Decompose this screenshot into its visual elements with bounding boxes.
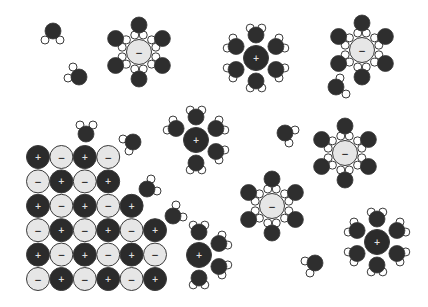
- hydrating-water: [264, 219, 280, 241]
- hydrating-water: [389, 246, 410, 266]
- lattice-cation: +: [97, 268, 120, 291]
- oxygen-atom: [328, 79, 344, 95]
- oxygen-atom: [208, 121, 224, 137]
- plus-sign-icon: +: [81, 251, 88, 260]
- oxygen-atom: [188, 155, 204, 171]
- plus-sign-icon: +: [193, 136, 200, 145]
- oxygen-atom: [131, 17, 147, 33]
- oxygen-atom: [241, 185, 257, 201]
- oxygen-atom: [45, 23, 61, 39]
- oxygen-atom: [331, 29, 347, 45]
- free-water-molecule: [277, 125, 299, 147]
- hydrating-water: [367, 208, 387, 227]
- solvated-cation: +: [365, 230, 390, 255]
- solvated-anion: −: [127, 40, 152, 65]
- oxygen-atom: [208, 144, 224, 160]
- hydrated-anion-cluster: −: [108, 17, 171, 87]
- minus-sign-icon: −: [128, 275, 136, 285]
- plus-sign-icon: +: [35, 251, 42, 260]
- plus-sign-icon: +: [128, 251, 135, 260]
- plus-sign-icon: +: [374, 238, 381, 247]
- oxygen-atom: [268, 62, 284, 78]
- lattice-cation: +: [50, 170, 73, 193]
- free-water-molecule: [41, 23, 64, 44]
- oxygen-atom: [71, 69, 87, 85]
- oxygen-atom: [154, 58, 170, 74]
- free-water-molecule: [165, 201, 187, 224]
- minus-sign-icon: −: [34, 226, 42, 236]
- minus-sign-icon: −: [151, 250, 159, 260]
- hydrated-anion-cluster: −: [241, 171, 304, 241]
- hydrating-water: [367, 257, 387, 276]
- plus-sign-icon: +: [196, 251, 203, 260]
- lattice-anion: −: [120, 219, 143, 242]
- oxygen-atom: [360, 159, 376, 175]
- hydrated-anion-cluster: −: [314, 118, 377, 188]
- minus-sign-icon: −: [81, 226, 89, 236]
- hydrating-water: [223, 34, 244, 54]
- oxygen-atom: [389, 246, 405, 262]
- minus-sign-icon: −: [128, 226, 136, 236]
- oxygen-atom: [377, 29, 393, 45]
- plus-sign-icon: +: [58, 226, 65, 235]
- minus-sign-icon: −: [358, 46, 366, 56]
- lattice-anion: −: [50, 146, 73, 169]
- oxygen-atom: [314, 159, 330, 175]
- lattice-cation: +: [73, 194, 96, 217]
- lattice-anion: −: [97, 146, 120, 169]
- oxygen-atom: [248, 27, 264, 43]
- minus-sign-icon: −: [81, 275, 89, 285]
- hydrated-cation-cluster: +: [344, 208, 410, 276]
- minus-sign-icon: −: [341, 149, 349, 159]
- solvated-cation: +: [187, 243, 212, 268]
- plus-sign-icon: +: [35, 153, 42, 162]
- lattice-anion: −: [97, 243, 120, 266]
- hydrating-water: [264, 171, 280, 193]
- lattice-anion: −: [144, 243, 167, 266]
- plus-sign-icon: +: [81, 202, 88, 211]
- hydrating-water: [246, 73, 266, 92]
- lattice-anion: −: [50, 194, 73, 217]
- free-water-molecule: [328, 74, 350, 98]
- plus-sign-icon: +: [152, 226, 159, 235]
- lattice-cation: +: [120, 194, 143, 217]
- lattice-cation: +: [97, 170, 120, 193]
- lattice-anion: −: [73, 219, 96, 242]
- hydrating-water: [354, 63, 370, 85]
- lattice-cation: +: [97, 219, 120, 242]
- hydrating-water: [163, 116, 184, 136]
- oxygen-atom: [211, 236, 227, 252]
- lattice-cation: +: [73, 243, 96, 266]
- hydrating-water: [246, 24, 266, 43]
- oxygen-atom: [241, 212, 257, 228]
- lattice-anion: −: [50, 243, 73, 266]
- oxygen-atom: [287, 212, 303, 228]
- plus-sign-icon: +: [105, 275, 112, 284]
- lattice-cation: +: [120, 243, 143, 266]
- plus-sign-icon: +: [58, 177, 65, 186]
- hydrated-cation-cluster: +: [187, 221, 232, 289]
- lattice-anion: −: [97, 194, 120, 217]
- oxygen-atom: [307, 255, 323, 271]
- oxygen-atom: [277, 125, 293, 141]
- oxygen-atom: [287, 185, 303, 201]
- hydrating-water: [344, 218, 365, 238]
- oxygen-atom: [349, 223, 365, 239]
- free-water-molecule: [301, 255, 323, 277]
- plus-sign-icon: +: [152, 275, 159, 284]
- lattice-cation: +: [27, 194, 50, 217]
- oxygen-atom: [314, 132, 330, 148]
- free-water-molecule: [64, 63, 87, 85]
- free-water-molecule: [119, 134, 141, 155]
- oxygen-atom: [264, 171, 280, 187]
- oxygen-atom: [108, 58, 124, 74]
- oxygen-atom: [337, 118, 353, 134]
- oxygen-atom: [228, 62, 244, 78]
- plus-sign-icon: +: [105, 226, 112, 235]
- minus-sign-icon: −: [81, 177, 89, 187]
- lattice-cation: +: [144, 219, 167, 242]
- hydrating-water: [208, 116, 229, 136]
- diagram-canvas: Dissolution of an ionic crystal in water…: [0, 0, 428, 307]
- solvated-anion: −: [350, 38, 375, 63]
- lattice-cation: +: [27, 243, 50, 266]
